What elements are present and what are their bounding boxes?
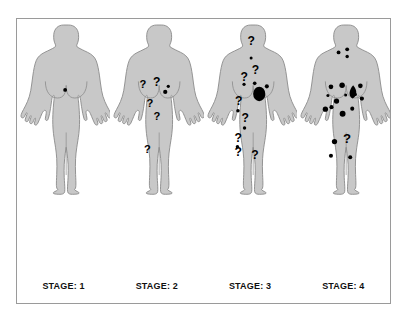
lesion-spot (328, 85, 333, 90)
lesion-spot (359, 96, 363, 100)
lesion-spot (339, 111, 345, 117)
lesion-spot (329, 105, 333, 109)
question-mark-icon: ? (144, 143, 151, 155)
question-mark-icon: ? (234, 131, 241, 145)
lesion-spot (252, 81, 256, 85)
stage-label-2: STAGE: 2 (110, 281, 203, 291)
question-mark-icon: ? (234, 94, 241, 108)
body-silhouette-3: ???????? (204, 23, 297, 271)
lesion-spot (242, 126, 245, 129)
lesion-spot (163, 90, 167, 94)
body-silhouette-4: ? (297, 23, 390, 271)
lesion-spot (358, 84, 363, 89)
body-outline (21, 25, 110, 194)
illustration-frame: STAGE: 1?????STAGE: 2????????STAGE: 3?ST… (16, 18, 391, 304)
lesion-spot (326, 94, 329, 97)
lesion-spot (344, 93, 347, 96)
lesion-spot (63, 88, 67, 92)
lesion-spot (345, 47, 349, 51)
lesion-spot (334, 98, 339, 103)
lesion-spot (350, 107, 354, 111)
lesion-spot (236, 109, 239, 112)
body-silhouette-2: ????? (110, 23, 203, 271)
question-mark-icon: ? (147, 97, 154, 109)
question-mark-icon: ? (343, 131, 351, 146)
stage-panel-3: ????????STAGE: 3 (204, 19, 297, 303)
question-mark-icon: ? (234, 145, 241, 159)
lesion-spot (322, 107, 327, 112)
lesion-spot (345, 55, 348, 58)
body-outline (208, 25, 297, 194)
stage-label-4: STAGE: 4 (297, 281, 390, 291)
question-mark-icon: ? (240, 70, 247, 84)
question-mark-icon: ? (251, 63, 258, 77)
stage-panel-2: ?????STAGE: 2 (110, 19, 203, 303)
body-silhouette-1 (17, 23, 110, 271)
lesion-spot (348, 155, 352, 159)
question-mark-icon: ? (140, 78, 147, 90)
question-mark-icon: ? (154, 110, 161, 122)
lesion-spot (264, 84, 268, 88)
stage-label-1: STAGE: 1 (17, 281, 110, 291)
question-mark-icon: ? (251, 148, 258, 162)
lesion-spot (336, 50, 340, 54)
lesion-spot (339, 83, 344, 88)
lesion-spot (249, 56, 252, 59)
stage-label-3: STAGE: 3 (204, 281, 297, 291)
stage-panel-4: ?STAGE: 4 (297, 19, 390, 303)
stage-row: STAGE: 1?????STAGE: 2????????STAGE: 3?ST… (17, 19, 390, 303)
large-tumor-mass (253, 87, 265, 102)
lesion-spot (167, 85, 170, 88)
question-mark-icon: ? (241, 111, 248, 125)
stage-panel-1: STAGE: 1 (17, 19, 110, 303)
question-mark-icon: ? (153, 75, 160, 89)
lesion-spot (332, 139, 337, 144)
lesion-spot (353, 93, 356, 96)
question-mark-icon: ? (247, 34, 254, 48)
lesion-spot (329, 154, 333, 158)
